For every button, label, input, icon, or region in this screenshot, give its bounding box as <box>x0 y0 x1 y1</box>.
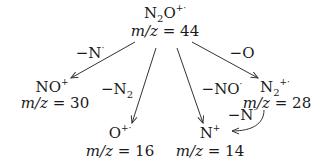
node-parent-formula: N2O+· <box>130 6 200 21</box>
loss-label-n-radical-secondary: −N· <box>222 108 262 123</box>
loss-label-n-radical: −N· <box>70 46 110 61</box>
node-n2-formula: N2+· <box>250 80 300 95</box>
node-no-mz: m/z = 30 <box>10 96 100 111</box>
loss-label-n2: −N2 <box>97 82 137 97</box>
loss-label-no-radical: −NO· <box>197 82 247 97</box>
node-n-formula: N+ <box>190 126 230 141</box>
node-no-formula: NO+ <box>22 80 82 95</box>
node-o-formula: O+· <box>100 126 140 141</box>
node-n-mz: m/z = 14 <box>165 144 255 159</box>
node-o-mz: m/z = 16 <box>75 144 165 159</box>
loss-label-o: −O <box>222 46 262 61</box>
node-parent-mz: m/z = 44 <box>120 24 210 39</box>
